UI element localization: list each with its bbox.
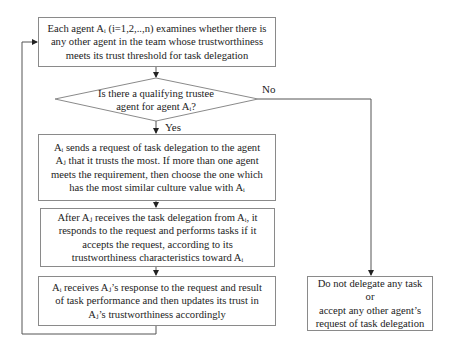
update-line-1: Aᵢ receives Aⱼ’s response to the request…: [52, 281, 262, 294]
send-request-box: Aᵢ sends a request of task delegation to…: [38, 134, 276, 201]
respond-box: After Aⱼ receives the task delegation fr…: [40, 208, 275, 267]
send-line-4: has the most similar culture value with …: [51, 181, 263, 194]
respond-line-1: After Aⱼ receives the task delegation fr…: [57, 211, 257, 224]
decision-line-1: Is there a qualifying trustee: [80, 87, 232, 100]
respond-line-2: responds to the request and performs tas…: [57, 224, 257, 237]
send-line-2: Aⱼ that it trusts the most. If more than…: [51, 154, 263, 167]
start-line-1: Each agent Aᵢ (i=1,2,..,n) examines whet…: [48, 22, 267, 35]
respond-line-3: accepts the request, according to its: [57, 238, 257, 251]
no-label: No: [262, 83, 275, 95]
update-trust-box: Aᵢ receives Aⱼ’s response to the request…: [38, 276, 276, 326]
no-delegation-line-1: Do not delegate any task or: [312, 277, 428, 303]
respond-line-4: trustworthiness characteristics toward A…: [57, 251, 257, 264]
start-line-3: meets its trust threshold for task deleg…: [48, 49, 267, 62]
send-line-1: Aᵢ sends a request of task delegation to…: [51, 141, 263, 154]
start-line-2: any other agent in the team whose trustw…: [48, 35, 267, 48]
no-delegation-box: Do not delegate any task or accept any o…: [307, 276, 433, 331]
no-delegation-line-3: request of task delegation: [312, 317, 428, 330]
update-line-2: of task performance and then updates its…: [52, 294, 262, 307]
start-box: Each agent Aᵢ (i=1,2,..,n) examines whet…: [38, 17, 276, 67]
yes-label: Yes: [165, 121, 181, 133]
update-line-3: Aⱼ’s trustworthiness accordingly: [52, 308, 262, 321]
decision-line-2: agent for agent Aᵢ?: [80, 100, 232, 113]
decision-text: Is there a qualifying trustee agent for …: [80, 87, 232, 113]
no-delegation-line-2: accept any other agent’s: [312, 304, 428, 317]
send-line-3: meets the requirement, then choose the o…: [51, 168, 263, 181]
